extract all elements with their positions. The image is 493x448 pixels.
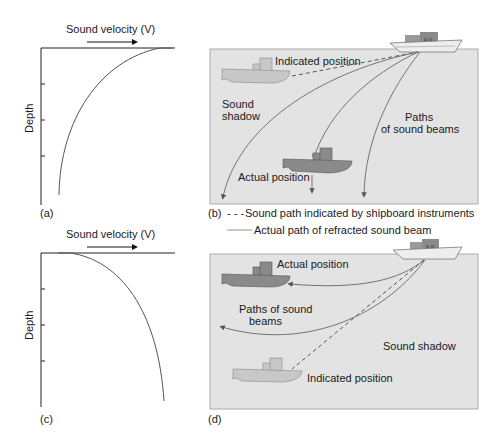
panel-a-label: (a) (40, 207, 53, 219)
surface-ship-icon: o o (393, 239, 462, 259)
legend-dashed-marker: - - - (227, 207, 244, 219)
panel-c-title: Sound velocity (V) (66, 228, 155, 240)
panel-a-ylabel: Depth (23, 104, 35, 133)
panel-b-paths-1: Paths (405, 111, 434, 123)
panel-b-paths-2: of sound beams (381, 123, 460, 135)
panel-d-label: (d) (208, 413, 221, 425)
panel-b-label: (b) (208, 207, 221, 219)
panel-d-paths-1: Paths of sound (239, 303, 312, 315)
panel-b-shadow-1: Sound (222, 98, 254, 110)
panel-d-scene: o o Actual position Paths of sound beams… (208, 239, 478, 425)
legend-dashed-label: Sound path indicated by shipboard instru… (245, 207, 475, 219)
panel-a-velocity-profile: Sound velocity (V) Depth (a) (23, 23, 175, 219)
panel-d-paths-2: beams (249, 315, 283, 327)
panel-d-indicated-position: Indicated position (307, 372, 393, 384)
panel-a-title: Sound velocity (V) (66, 23, 155, 35)
legend: - - - Sound path indicated by shipboard … (227, 207, 475, 236)
panel-c-label: (c) (40, 413, 53, 425)
diagram-canvas: Sound velocity (V) Depth (a) o o Indicat… (0, 0, 493, 448)
surface-ship-icon: o o (390, 32, 462, 52)
panel-c-ylabel: Depth (23, 311, 35, 340)
velocity-curve (59, 48, 172, 195)
panel-b-shadow-2: shadow (222, 110, 260, 122)
panel-c-velocity-profile: Sound velocity (V) Depth (c) (23, 228, 175, 425)
panel-d-actual-position: Actual position (277, 258, 349, 270)
panel-b-scene: o o Indicated position Sound shadow Path… (208, 32, 478, 219)
panel-d-sound-shadow: Sound shadow (383, 340, 456, 352)
legend-solid-label: Actual path of refracted sound beam (254, 224, 431, 236)
panel-b-actual-position: Actual position (238, 171, 310, 183)
velocity-curve (58, 253, 164, 401)
